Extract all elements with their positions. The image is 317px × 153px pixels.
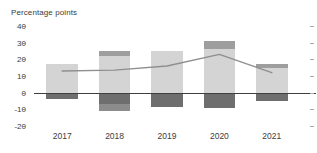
- y-axis-tick-mark-right: [310, 126, 314, 127]
- y-axis-tick-mark: [22, 126, 26, 127]
- y-axis-tick-labels: 403020100-10-20: [0, 26, 26, 126]
- chart-axis-title: Percentage points: [11, 8, 77, 17]
- y-axis-tick-mark-right: [310, 109, 314, 110]
- line-series-layer: [36, 26, 298, 126]
- x-axis-tick-label: 2021: [262, 131, 281, 141]
- plot-area: [36, 26, 298, 126]
- x-axis-tick-label: 2020: [210, 131, 229, 141]
- zero-baseline: [34, 93, 316, 94]
- total-line-path: [62, 54, 272, 72]
- x-axis-tick-label: 2017: [53, 131, 72, 141]
- y-axis-tick-mark-right: [310, 76, 314, 77]
- y-axis-tick-mark-right: [310, 43, 314, 44]
- y-axis-tick-mark: [22, 43, 26, 44]
- y-axis-tick-mark-right: [310, 59, 314, 60]
- y-axis-tick-mark-right: [310, 26, 314, 27]
- y-axis-tick-mark: [22, 93, 26, 94]
- x-axis-tick-label: 2018: [105, 131, 124, 141]
- y-axis-tick-mark: [22, 26, 26, 27]
- chart-container: Percentage points 403020100-10-20 201720…: [0, 0, 317, 153]
- y-axis-tick-mark: [22, 76, 26, 77]
- x-axis-tick-label: 2019: [158, 131, 177, 141]
- y-axis-tick-mark: [22, 59, 26, 60]
- y-axis-tick-mark: [22, 109, 26, 110]
- y-axis-tick-mark-right: [310, 93, 314, 94]
- x-axis-tick-labels: 20172018201920202021: [36, 131, 298, 145]
